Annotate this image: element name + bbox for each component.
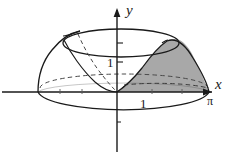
x-axis-tick-label-one: 1	[140, 96, 147, 112]
figure-canvas	[0, 0, 246, 158]
y-axis-arrowhead	[114, 8, 121, 17]
x-axis-label: x	[215, 76, 222, 93]
y-axis-label: y	[126, 2, 133, 19]
x-axis-pi-label: π	[207, 94, 213, 109]
solid-of-revolution-figure: y x 1 1 π	[0, 0, 246, 158]
y-axis-tick-label-one: 1	[107, 55, 114, 71]
